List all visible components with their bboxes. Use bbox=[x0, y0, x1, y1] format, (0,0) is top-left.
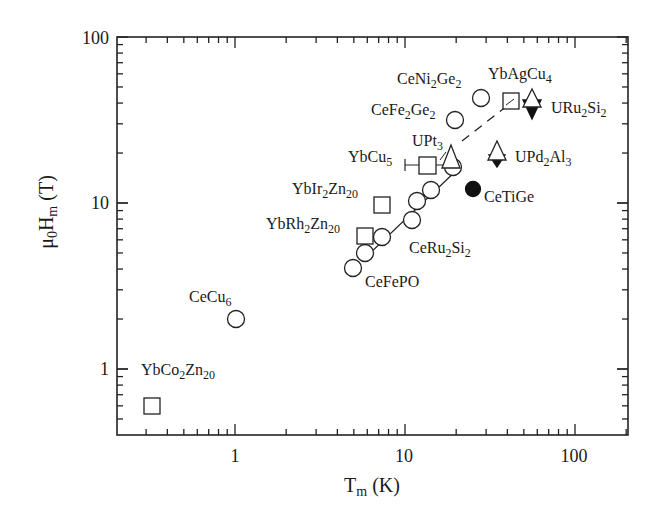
data-point-cefe2ge2 bbox=[447, 112, 464, 129]
x-axis-title: Tm (K) bbox=[344, 474, 400, 499]
data-point-ceni2ge2 bbox=[473, 90, 490, 107]
data-point-cetige bbox=[466, 182, 481, 197]
label-ybcu5: YbCu5 bbox=[348, 148, 392, 169]
label-ybir2zn20: YbIr2Zn20 bbox=[292, 180, 358, 201]
data-point-ceru2si2 bbox=[374, 229, 391, 246]
data-point-upd2al3 bbox=[488, 141, 506, 160]
label-ybrh2zn20: YbRh2Zn20 bbox=[266, 215, 340, 236]
data-point-ybrh2zn20 bbox=[357, 228, 373, 244]
y-tick-label: 100 bbox=[82, 28, 109, 48]
y-tick-labels: 1 10 100 bbox=[82, 28, 109, 379]
data-point-ceru2si2 bbox=[409, 193, 426, 210]
data-point-ceru2si2 bbox=[404, 212, 421, 229]
data-point-ybcu5 bbox=[419, 157, 436, 174]
data-point-ybir2zn20 bbox=[374, 197, 390, 213]
label-cetige: CeTiGe bbox=[484, 188, 534, 205]
x-tick-label: 10 bbox=[395, 446, 413, 466]
label-cecu6: CeCu6 bbox=[189, 288, 231, 309]
point-labels: CeNi2Ge2 YbAgCu4 CeFe2Ge2 URu2Si2 UPt3 Y… bbox=[141, 65, 607, 382]
data-point-ceru2si2 bbox=[423, 182, 440, 199]
scatter-chart: 1 10 100 1 10 100 Tm (K) μ0Hm (T) bbox=[0, 0, 662, 522]
x-tick-label: 1 bbox=[231, 446, 240, 466]
data-point-ybco2zn20 bbox=[144, 398, 160, 414]
data-point-uru2si2 bbox=[523, 89, 541, 107]
y-axis-title: μ0Hm (T) bbox=[35, 175, 60, 249]
y-tick-label: 1 bbox=[100, 359, 109, 379]
y-tick-label: 10 bbox=[91, 193, 109, 213]
label-uru2si2: URu2Si2 bbox=[551, 99, 607, 120]
label-cefepo: CeFePO bbox=[365, 273, 419, 290]
label-cefe2ge2: CeFe2Ge2 bbox=[371, 101, 435, 122]
label-ybco2zn20: YbCo2Zn20 bbox=[141, 361, 215, 382]
label-ceni2ge2: CeNi2Ge2 bbox=[397, 70, 461, 91]
x-tick-labels: 1 10 100 bbox=[231, 446, 588, 466]
label-upt3: UPt3 bbox=[412, 132, 443, 153]
x-tick-label: 100 bbox=[561, 446, 588, 466]
data-point-ceru2si2 bbox=[357, 245, 374, 262]
data-point-upt3 bbox=[442, 145, 460, 168]
label-ybagcu4: YbAgCu4 bbox=[488, 65, 552, 86]
label-upd2al3: UPd2Al3 bbox=[515, 148, 571, 169]
data-point-cefepo bbox=[345, 260, 362, 277]
circle-markers bbox=[228, 90, 490, 328]
label-ceru2si2: CeRu2Si2 bbox=[409, 239, 471, 260]
data-point-cecu6 bbox=[228, 311, 245, 328]
